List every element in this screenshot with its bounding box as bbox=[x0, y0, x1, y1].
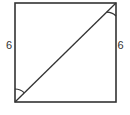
angle-arc-bottom-left bbox=[15, 89, 24, 93]
square-diagonal-diagram: 6 6 bbox=[0, 0, 130, 115]
diagonal-line bbox=[15, 3, 116, 102]
right-side-length-label: 6 bbox=[118, 39, 124, 51]
angle-arc-top-right bbox=[107, 12, 116, 16]
left-side-length-label: 6 bbox=[6, 39, 12, 51]
